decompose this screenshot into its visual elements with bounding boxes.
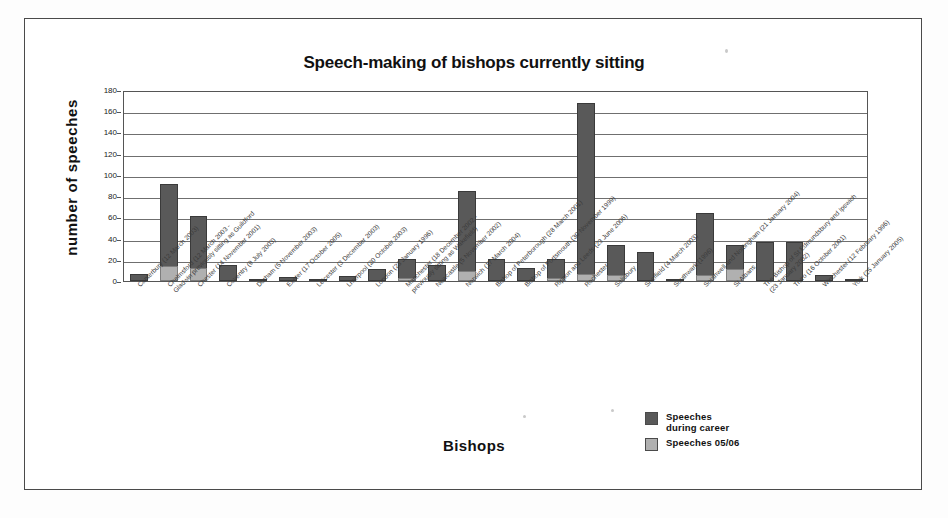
y-tick-label: 100	[91, 172, 117, 180]
y-tick-label: 0	[91, 278, 117, 286]
y-tick-mark	[117, 197, 121, 198]
scan-speck-3	[611, 409, 614, 412]
chart-legend: Speeches during career Speeches 05/06	[645, 411, 815, 455]
chart-frame: Speech-making of bishops currently sitti…	[24, 18, 922, 490]
y-tick-mark	[117, 91, 121, 92]
y-tick-label: 180	[91, 87, 117, 95]
scan-speck-1	[725, 49, 728, 53]
y-tick-label: 120	[91, 151, 117, 159]
y-axis-title: number of speeches	[63, 78, 80, 278]
y-tick-mark	[117, 218, 121, 219]
bar-segment-career[interactable]	[696, 213, 714, 281]
legend-item-current: Speeches 05/06	[645, 437, 815, 451]
y-tick-label: 40	[91, 236, 117, 244]
legend-label-career: Speeches during career	[666, 411, 729, 433]
legend-label-current: Speeches 05/06	[666, 437, 740, 448]
bar-group[interactable]	[607, 90, 625, 281]
y-tick-label: 20	[91, 257, 117, 265]
legend-label-career-line1: Speeches	[666, 411, 712, 422]
y-tick-label: 80	[91, 193, 117, 201]
y-axis-ticks: 020406080100120140160180	[91, 83, 121, 290]
y-tick-label: 160	[91, 108, 117, 116]
x-axis-labels: Canterbury (12 March 2003)Chelmsford (12…	[123, 283, 883, 413]
bar-group[interactable]	[130, 90, 148, 281]
y-tick-label: 140	[91, 129, 117, 137]
y-tick-label: 60	[91, 214, 117, 222]
chart-title: Speech-making of bishops currently sitti…	[25, 53, 923, 73]
bar-group[interactable]	[756, 90, 774, 281]
legend-swatch-current	[645, 438, 658, 451]
scan-speck-2	[523, 415, 526, 418]
y-tick-mark	[117, 176, 121, 177]
y-tick-mark	[117, 133, 121, 134]
y-tick-mark	[117, 261, 121, 262]
y-tick-mark	[117, 282, 121, 283]
bar-group[interactable]	[637, 90, 655, 281]
y-tick-mark	[117, 240, 121, 241]
legend-label-career-line2: during career	[666, 422, 729, 433]
legend-item-career: Speeches during career	[645, 411, 815, 433]
y-tick-mark	[117, 112, 121, 113]
y-tick-mark	[117, 155, 121, 156]
chart-page: Speech-making of bishops currently sitti…	[0, 0, 948, 518]
legend-swatch-career	[645, 412, 658, 425]
